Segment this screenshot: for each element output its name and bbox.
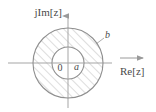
complex-plane-figure: jIm[z] Re[z] 0 a b bbox=[0, 0, 156, 112]
imaginary-axis-label: jIm[z] bbox=[34, 6, 62, 18]
outer-radius-label: b bbox=[105, 29, 110, 40]
inner-radius-label: a bbox=[74, 61, 79, 72]
origin-label: 0 bbox=[58, 62, 63, 73]
real-axis-label: Re[z] bbox=[120, 65, 144, 77]
